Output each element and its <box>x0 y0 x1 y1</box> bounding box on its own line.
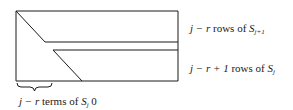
curly-brace <box>17 83 52 91</box>
upper-block-label: j − r rows of Sj+1 <box>190 23 265 36</box>
lower-diagonal <box>53 50 82 81</box>
upper-block-count: j − r <box>190 22 210 34</box>
block-diagram <box>0 0 293 110</box>
brace-label: j − r terms of Sj 0 <box>19 96 97 109</box>
brace-count: j − r <box>19 95 39 107</box>
lower-block-label: j − r + 1 rows of Sj <box>190 63 275 76</box>
lower-block-count: j − r + 1 <box>190 62 229 74</box>
upper-diagonal <box>16 11 45 42</box>
